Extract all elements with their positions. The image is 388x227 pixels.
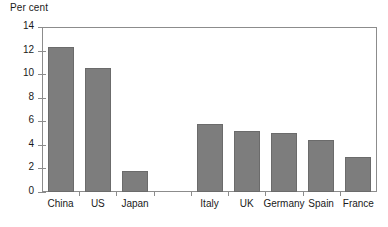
bars-layer bbox=[42, 27, 377, 192]
y-axis-tick-label: 10 bbox=[23, 67, 34, 79]
bar-chart: Per cent 02468101214 ChinaUSJapanItalyUK… bbox=[0, 0, 388, 227]
x-axis-tick-mark bbox=[303, 192, 304, 196]
y-axis-tick-label: 0 bbox=[28, 185, 34, 197]
bar bbox=[197, 124, 223, 192]
bar bbox=[122, 171, 148, 192]
y-axis-title: Per cent bbox=[10, 2, 48, 14]
bar bbox=[271, 133, 297, 192]
bar bbox=[85, 68, 111, 192]
x-axis-tick-mark bbox=[116, 192, 117, 196]
x-axis-category-label: France bbox=[318, 198, 388, 210]
x-axis-tick-mark bbox=[265, 192, 266, 196]
y-axis-tick-mark-inner bbox=[42, 192, 46, 193]
bar bbox=[308, 140, 334, 192]
y-axis-tick-label: 8 bbox=[28, 91, 34, 103]
bar bbox=[234, 131, 260, 192]
bar bbox=[48, 47, 74, 192]
y-axis-tick-label: 14 bbox=[23, 20, 34, 32]
x-axis-tick-mark bbox=[340, 192, 341, 196]
y-axis-tick-label: 4 bbox=[28, 138, 34, 150]
x-axis-category-label: Japan bbox=[95, 198, 175, 210]
x-axis-tick-mark bbox=[79, 192, 80, 196]
bar bbox=[345, 157, 371, 192]
x-axis-tick-mark bbox=[154, 192, 155, 196]
x-axis-tick-mark bbox=[191, 192, 192, 196]
y-axis-tick-label: 12 bbox=[23, 44, 34, 56]
y-axis-tick-label: 6 bbox=[28, 114, 34, 126]
x-axis-tick-mark bbox=[228, 192, 229, 196]
y-axis-tick-label: 2 bbox=[28, 161, 34, 173]
